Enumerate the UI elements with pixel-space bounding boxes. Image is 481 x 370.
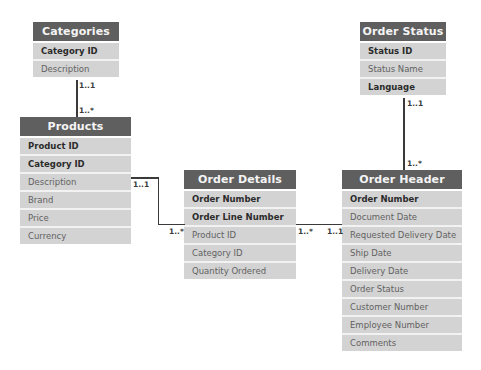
field-order-number: Order Number (342, 191, 462, 209)
field-order-status: Order Status (342, 281, 462, 299)
field-description: Description (33, 61, 119, 77)
entity-products: Products Product ID Category ID Descript… (20, 117, 131, 244)
connector-products-order-details-v (158, 177, 160, 225)
connector-products-order-details-h2 (158, 224, 185, 226)
cardinality-label: 1..1 (133, 181, 149, 189)
connector-categories-products (76, 80, 78, 117)
field-customer-number: Customer Number (342, 299, 462, 317)
field-delivery-date: Delivery Date (342, 263, 462, 281)
entity-order-status: Order Status Status ID Status Name Langu… (360, 22, 446, 95)
field-brand: Brand (20, 192, 131, 210)
connector-products-order-details-h1 (131, 177, 159, 179)
field-comments: Comments (342, 335, 462, 351)
cardinality-label: 1..* (407, 160, 422, 168)
connector-order-details-order-header (296, 224, 342, 226)
field-product-id: Product ID (184, 227, 296, 245)
field-price: Price (20, 210, 131, 228)
field-product-id: Product ID (20, 138, 131, 156)
cardinality-label: 1..1 (79, 82, 95, 90)
field-employee-number: Employee Number (342, 317, 462, 335)
entity-title: Order Details (184, 170, 296, 191)
field-quantity-ordered: Quantity Ordered (184, 263, 296, 279)
field-language: Language (360, 79, 446, 95)
field-document-date: Document Date (342, 209, 462, 227)
cardinality-label: 1..1 (407, 100, 423, 108)
field-order-number: Order Number (184, 191, 296, 209)
entity-order-header: Order Header Order Number Document Date … (342, 170, 462, 351)
field-description: Description (20, 174, 131, 192)
connector-order-status-order-header (403, 98, 405, 170)
field-ship-date: Ship Date (342, 245, 462, 263)
entity-title: Order Header (342, 170, 462, 191)
entity-title: Order Status (360, 22, 446, 43)
cardinality-label: 1..* (298, 228, 313, 236)
field-currency: Currency (20, 228, 131, 244)
field-category-id: Category ID (20, 156, 131, 174)
field-status-name: Status Name (360, 61, 446, 79)
entity-title: Products (20, 117, 131, 138)
field-status-id: Status ID (360, 43, 446, 61)
entity-title: Categories (33, 22, 119, 43)
cardinality-label: 1..1 (327, 228, 343, 236)
entity-categories: Categories Category ID Description (33, 22, 119, 77)
cardinality-label: 1..* (79, 107, 94, 115)
field-category-id: Category ID (33, 43, 119, 61)
entity-order-details: Order Details Order Number Order Line Nu… (184, 170, 296, 279)
cardinality-label: 1..* (169, 228, 184, 236)
field-requested-delivery-date: Requested Delivery Date (342, 227, 462, 245)
field-order-line-number: Order Line Number (184, 209, 296, 227)
field-category-id: Category ID (184, 245, 296, 263)
